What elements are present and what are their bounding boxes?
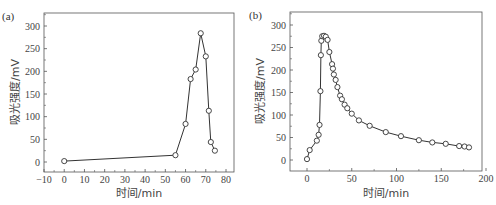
y-tick-label: 50 (30, 134, 40, 145)
panel-label-b: (b) (249, 9, 262, 22)
data-point (206, 108, 211, 113)
y-axis-title-b: 吸光强度/mV (253, 58, 267, 124)
data-point (383, 130, 388, 135)
y-tick-label: 50 (276, 132, 286, 143)
x-tick-label: 40 (140, 174, 150, 185)
data-point (398, 134, 403, 139)
x-tick-label: 150 (434, 173, 449, 184)
plot-frame-a (44, 13, 234, 172)
data-point (330, 66, 335, 71)
data-point (193, 67, 198, 72)
data-point (203, 54, 208, 59)
data-point (62, 158, 67, 163)
data-point (345, 106, 350, 111)
data-point (198, 31, 203, 36)
y-tick-label: 150 (271, 87, 286, 98)
data-point (339, 97, 344, 102)
data-point (349, 111, 354, 116)
data-point (416, 138, 421, 143)
x-tick-label: 50 (347, 173, 357, 184)
y-tick-label: 300 (25, 21, 40, 32)
data-markers-a (62, 31, 218, 164)
x-tick-label: 50 (160, 174, 170, 185)
y-tick-label: 250 (271, 42, 286, 53)
data-point (304, 157, 309, 162)
y-tick-label: 250 (25, 43, 40, 54)
y-axis-title-a: 吸光强度/mV (8, 59, 22, 125)
data-point (318, 89, 323, 94)
x-tick-label: 100 (389, 173, 404, 184)
data-point (307, 148, 312, 153)
data-point (208, 139, 213, 144)
x-axis-title-a: 时间/min (116, 187, 162, 200)
y-tick-label: 100 (271, 110, 286, 121)
data-point (367, 123, 372, 128)
data-point (173, 153, 178, 158)
data-point (318, 53, 323, 58)
data-point (212, 148, 217, 153)
data-point (183, 121, 188, 126)
chart-panel-b: (b) 050100150200250300 050100150200 吸光强度… (249, 9, 494, 200)
y-tick-label: 0 (35, 157, 40, 168)
x-tick-label: 20 (100, 174, 110, 185)
data-point (457, 143, 462, 148)
data-line-a (64, 33, 215, 161)
x-tick-label: 80 (221, 174, 231, 185)
data-point (325, 37, 330, 42)
data-markers-b (304, 33, 471, 162)
x-axis-b: 050100150200 (305, 168, 494, 184)
data-point (316, 132, 321, 137)
x-tick-label: −10 (36, 174, 52, 185)
data-point (335, 85, 340, 90)
data-point (333, 77, 338, 82)
chart-panel-a: (a) 050100150200250300 −1001020304050607… (2, 10, 234, 200)
data-point (188, 76, 193, 81)
y-tick-label: 0 (281, 155, 286, 166)
data-point (331, 72, 336, 77)
x-tick-label: 10 (79, 174, 89, 185)
x-tick-label: 70 (201, 174, 211, 185)
x-tick-label: 0 (305, 173, 310, 184)
y-tick-label: 300 (271, 20, 286, 31)
x-axis-a: −1001020304050607080 (36, 169, 231, 185)
x-tick-label: 200 (479, 173, 494, 184)
data-point (443, 141, 448, 146)
data-point (327, 49, 332, 54)
data-point (356, 118, 361, 123)
y-tick-label: 200 (25, 66, 40, 77)
data-point (314, 138, 319, 143)
panel-label-a: (a) (2, 10, 15, 23)
x-tick-label: 30 (120, 174, 130, 185)
y-tick-label: 100 (25, 111, 40, 122)
y-tick-label: 150 (25, 89, 40, 100)
figure: (a) 050100150200250300 −1001020304050607… (0, 0, 496, 205)
data-point (466, 145, 471, 150)
x-tick-label: 60 (181, 174, 191, 185)
y-tick-label: 200 (271, 65, 286, 76)
x-tick-label: 0 (62, 174, 67, 185)
x-axis-title-b: 时间/min (363, 187, 409, 200)
data-point (430, 140, 435, 145)
data-point (317, 122, 322, 127)
